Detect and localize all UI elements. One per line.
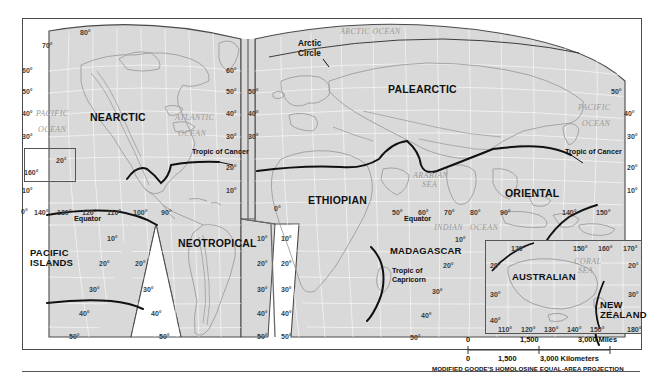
inset-graticule-label-12: 140° bbox=[567, 326, 581, 333]
realm-label-madagascar: MADAGASCAR bbox=[390, 246, 462, 256]
annotation-equator: Equator bbox=[74, 215, 101, 222]
inset-graticule-label-14: 180° bbox=[627, 326, 641, 333]
graticule-label-59: 30° bbox=[627, 133, 638, 140]
scale-km-start: 0 bbox=[466, 355, 470, 362]
ocean-label-atlantic: ATLANTIC bbox=[175, 114, 214, 122]
graticule-label-45: 50° bbox=[392, 209, 403, 216]
graticule-label-26: 50° bbox=[226, 88, 237, 95]
australian-inset bbox=[485, 240, 642, 334]
graticule-label-23: 40° bbox=[151, 310, 162, 317]
graticule-label-55: 140° bbox=[562, 209, 576, 216]
graticule-label-32: 20° bbox=[257, 260, 268, 267]
ocean-label-ocean: OCEAN bbox=[470, 224, 498, 232]
graticule-label-19: 40° bbox=[79, 310, 90, 317]
graticule-label-50: 10° bbox=[455, 236, 466, 243]
graticule-label-3: 50° bbox=[22, 88, 33, 95]
pacific-inset-box bbox=[24, 148, 76, 182]
graticule-label-61: 10° bbox=[627, 187, 638, 194]
graticule-label-28: 30° bbox=[226, 133, 237, 140]
graticule-label-30: 10° bbox=[226, 187, 237, 194]
graticule-label-9: 20° bbox=[56, 157, 67, 164]
graticule-label-2: 60° bbox=[22, 67, 33, 74]
annotation-equator: Equator bbox=[404, 215, 431, 222]
scale-miles-start: 0 bbox=[466, 336, 470, 343]
graticule-label-4: 40° bbox=[22, 110, 33, 117]
graticule-label-54: 50° bbox=[410, 334, 421, 341]
graticule-label-39: 0° bbox=[274, 205, 281, 212]
graticule-label-8: 160° bbox=[24, 169, 38, 176]
ocean-label-ocean: OCEAN bbox=[582, 120, 610, 128]
graticule-label-53: 40° bbox=[421, 312, 432, 319]
inset-graticule-label-0: 120° bbox=[511, 245, 525, 252]
map-screenshot: NEARCTICNEOTROPICALPACIFICISLANDSPALEARC… bbox=[0, 0, 662, 379]
graticule-label-36: 50° bbox=[248, 88, 259, 95]
realm-label-ethiopian: ETHIOPIAN bbox=[308, 195, 367, 206]
graticule-label-17: 20° bbox=[99, 260, 110, 267]
graticule-label-58: 40° bbox=[624, 110, 635, 117]
graticule-label-46: 60° bbox=[418, 209, 429, 216]
scale-miles-end: 3,000 Miles bbox=[578, 336, 617, 343]
graticule-label-15: 90° bbox=[161, 209, 172, 216]
ocean-label-sea: SEA bbox=[578, 267, 593, 275]
ocean-label-coral: CORAL bbox=[574, 258, 601, 266]
realm-label-palearctic: PALEARCTIC bbox=[388, 84, 457, 95]
annotation-tropic-of-cancer: Tropic of Cancer bbox=[192, 148, 249, 155]
inset-graticule-label-5: 30° bbox=[490, 291, 501, 298]
graticule-label-21: 20° bbox=[135, 260, 146, 267]
ocean-label-arctic-ocean: ARCTIC OCEAN bbox=[340, 28, 401, 36]
inset-graticule-label-7: 20° bbox=[628, 262, 639, 269]
realm-label-pacific-islands: PACIFICISLANDS bbox=[30, 248, 73, 267]
graticule-label-40: 10° bbox=[281, 235, 292, 242]
inset-graticule-label-13: 150° bbox=[590, 326, 604, 333]
graticule-label-20: 50° bbox=[69, 333, 80, 340]
graticule-label-11: 130° bbox=[57, 209, 71, 216]
graticule-label-1: 70° bbox=[42, 42, 53, 49]
projection-note: MODIFIED GOODE'S HOMOLOSINE EQUAL-AREA P… bbox=[432, 366, 624, 372]
annotation-circle: Circle bbox=[298, 50, 321, 58]
graticule-label-37: 40° bbox=[248, 110, 259, 117]
ocean-label-ocean: OCEAN bbox=[178, 130, 206, 138]
graticule-label-0: 80° bbox=[80, 29, 91, 36]
graticule-label-44: 50° bbox=[281, 333, 292, 340]
graticule-label-33: 30° bbox=[257, 286, 268, 293]
realm-label-new-zealand-line-1: ZEALAND bbox=[600, 310, 647, 320]
graticule-label-57: 50° bbox=[611, 88, 622, 95]
graticule-label-12: 120° bbox=[82, 209, 96, 216]
realm-label-pacific-islands-line-1: ISLANDS bbox=[30, 258, 73, 268]
graticule-label-27: 40° bbox=[226, 110, 237, 117]
graticule-label-47: 70° bbox=[444, 209, 455, 216]
graticule-label-29: 20° bbox=[226, 164, 237, 171]
graticule-label-49: 90° bbox=[500, 209, 511, 216]
graticule-label-38: 30° bbox=[248, 133, 259, 140]
graticule-label-41: 20° bbox=[281, 260, 292, 267]
ocean-label-pacific: PACIFIC bbox=[36, 110, 68, 118]
inset-graticule-label-6: 40° bbox=[490, 317, 501, 324]
ocean-label-ocean: OCEAN bbox=[38, 126, 66, 134]
graticule-label-10: 140° bbox=[34, 209, 48, 216]
graticule-label-25: 60° bbox=[226, 67, 237, 74]
graticule-label-24: 50° bbox=[159, 333, 170, 340]
inset-graticule-label-1: 150° bbox=[573, 245, 587, 252]
annotation-tropic-of: Tropic of bbox=[392, 267, 422, 274]
graticule-label-60: 20° bbox=[627, 164, 638, 171]
realm-label-nearctic: NEARCTIC bbox=[90, 112, 146, 123]
graticule-label-52: 30° bbox=[432, 288, 443, 295]
ocean-label-arabian: ARABIAN bbox=[413, 172, 448, 180]
scale-km-mid: 1,500 bbox=[498, 355, 517, 362]
realm-label-australian: AUSTRALIAN bbox=[512, 272, 576, 282]
graticule-label-48: 80° bbox=[470, 209, 481, 216]
graticule-label-51: 20° bbox=[443, 262, 454, 269]
graticule-label-13: 110° bbox=[107, 209, 121, 216]
inset-graticule-label-4: 20° bbox=[490, 262, 501, 269]
inset-graticule-label-2: 160° bbox=[598, 245, 612, 252]
ocean-label-pacific: PACIFIC bbox=[578, 104, 610, 112]
graticule-label-18: 30° bbox=[89, 286, 100, 293]
graticule-label-56: 150° bbox=[596, 209, 610, 216]
annotation-arctic: Arctic bbox=[298, 40, 321, 48]
graticule-label-43: 40° bbox=[281, 310, 292, 317]
graticule-label-6: 10° bbox=[22, 187, 33, 194]
inset-graticule-label-9: 110° bbox=[498, 326, 512, 333]
graticule-label-35: 50° bbox=[257, 333, 268, 340]
scale-miles-mid: 1,500 bbox=[520, 336, 539, 343]
graticule-label-16: 10° bbox=[107, 235, 118, 242]
